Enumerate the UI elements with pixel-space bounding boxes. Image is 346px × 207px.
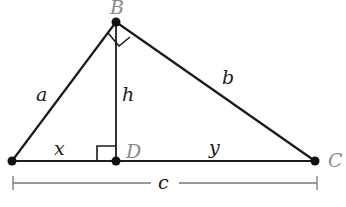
- segment-label-a: a: [36, 83, 47, 105]
- segment-label-h: h: [122, 83, 134, 105]
- vertex-d: [112, 157, 121, 166]
- vertex-a: [8, 157, 17, 166]
- vertex-label-c: C: [328, 149, 343, 171]
- vertex-c: [311, 157, 320, 166]
- dimension-label-c: c: [158, 171, 169, 193]
- vertex-b: [112, 18, 121, 27]
- vertex-label-b: B: [109, 0, 124, 18]
- triangle-diagram: B D C a b h x y c: [0, 0, 346, 207]
- right-angle-marker-b: [108, 33, 130, 46]
- segment-label-x: x: [54, 137, 65, 159]
- vertex-label-d: D: [125, 140, 141, 162]
- segment-label-y: y: [208, 136, 220, 158]
- segment-label-b: b: [222, 66, 234, 88]
